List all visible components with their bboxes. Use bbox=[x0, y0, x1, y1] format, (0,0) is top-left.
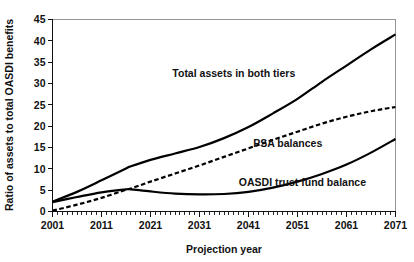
y-axis-ticks bbox=[48, 20, 53, 212]
chart-screenshot: 051015202530354045 200120112021203120412… bbox=[0, 0, 414, 262]
x-tick-label: 2071 bbox=[384, 219, 408, 231]
y-tick-label: 15 bbox=[34, 141, 46, 153]
y-tick-label: 25 bbox=[34, 99, 46, 111]
y-axis-title: Ratio of assets to total OASDI benefits bbox=[3, 19, 15, 211]
series-label-1: PSA balances bbox=[253, 137, 322, 149]
x-tick-label: 2051 bbox=[286, 219, 310, 231]
y-axis-tick-labels: 051015202530354045 bbox=[34, 13, 46, 217]
x-tick-label: 2011 bbox=[90, 219, 113, 231]
y-tick-label: 10 bbox=[34, 163, 46, 175]
x-axis: 20012011202120312041205120612071 bbox=[41, 212, 408, 231]
x-tick-label: 2001 bbox=[41, 219, 65, 231]
x-tick-label: 2041 bbox=[237, 219, 261, 231]
series-label-0: Total assets in both tiers bbox=[172, 67, 295, 79]
line-chart: 051015202530354045 200120112021203120412… bbox=[0, 0, 414, 262]
y-tick-label: 45 bbox=[34, 13, 46, 25]
y-tick-label: 20 bbox=[34, 120, 46, 132]
y-tick-label: 30 bbox=[34, 77, 46, 89]
y-tick-label: 35 bbox=[34, 56, 46, 68]
y-tick-label: 0 bbox=[40, 205, 46, 217]
series-line-2 bbox=[53, 139, 396, 202]
x-tick-label: 2061 bbox=[335, 219, 359, 231]
series-label-2: OASDI trust fund balance bbox=[239, 176, 366, 188]
y-tick-label: 40 bbox=[34, 35, 46, 47]
x-axis-tick-labels: 20012011202120312041205120612071 bbox=[41, 219, 408, 231]
x-axis-title: Projection year bbox=[186, 243, 262, 255]
x-tick-label: 2031 bbox=[188, 219, 212, 231]
y-tick-label: 5 bbox=[40, 184, 46, 196]
y-axis: 051015202530354045 bbox=[34, 13, 53, 217]
series-annotations: Total assets in both tiersPSA balancesOA… bbox=[172, 67, 366, 188]
x-tick-label: 2021 bbox=[139, 219, 163, 231]
